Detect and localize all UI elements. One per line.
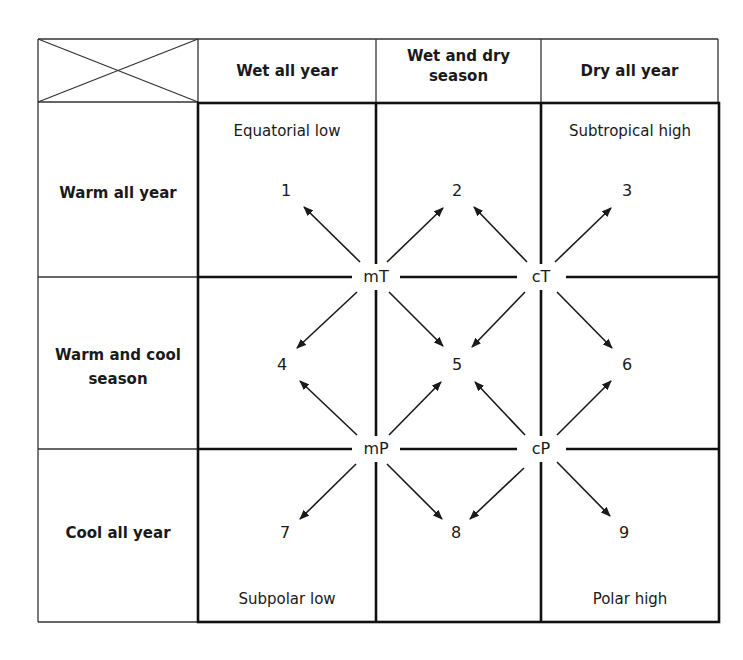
arrow-cT-2 [474,207,527,262]
arrow-mP-7 [300,464,356,519]
arrow-cT-5 [472,292,525,347]
region-polar-high: Polar high [541,588,719,610]
arrow-mP-4 [300,381,357,435]
climate-cell-2: 2 [447,180,467,202]
climate-cell-7: 7 [275,522,295,544]
arrow-mT-2 [387,208,443,262]
arrow-cP-6 [557,381,611,435]
climate-cell-6: 6 [617,354,637,376]
arrow-cT-6 [557,292,612,348]
region-equatorial-low: Equatorial low [198,120,376,142]
row-header-warm-and-cool-season: Warm and cool season [44,343,192,391]
arrow-mT-5 [389,292,443,346]
diagram-canvas [0,0,743,660]
region-subtropical-high: Subtropical high [541,120,719,142]
row-header-cool-all-year: Cool all year [38,522,198,544]
air-mass-cT: cT [519,266,563,288]
corner-cross-icon [38,39,198,102]
climate-cell-5: 5 [447,354,467,376]
climate-cell-8: 8 [446,522,466,544]
arrow-cP-5 [475,382,525,435]
column-header-wet-and-dry-season: Wet and dry season [376,46,541,86]
climate-cell-1: 1 [276,180,296,202]
climate-cell-9: 9 [614,522,634,544]
arrow-mP-5 [389,382,441,435]
arrow-mP-8 [387,464,442,519]
arrow-mT-1 [304,207,360,262]
column-header-dry-all-year: Dry all year [541,60,718,82]
column-header-wet-all-year: Wet all year [198,60,376,82]
arrow-cT-3 [555,208,611,262]
arrow-cP-8 [470,468,524,519]
climate-cell-3: 3 [617,180,637,202]
region-subpolar-low: Subpolar low [198,588,376,610]
climate-cell-4: 4 [272,354,292,376]
row-header-warm-all-year: Warm all year [38,182,198,204]
air-mass-cP: cP [519,438,563,460]
arrow-cP-9 [557,462,610,516]
air-mass-mP: mP [352,438,400,460]
arrow-mT-4 [297,292,357,348]
air-mass-mT: mT [352,266,400,288]
